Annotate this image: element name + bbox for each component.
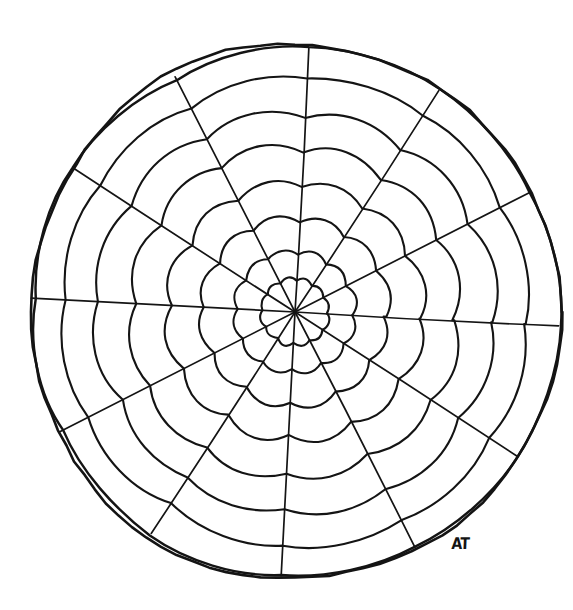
artist-signature: AT	[451, 534, 469, 552]
radial-spoke-1	[295, 312, 559, 326]
radial-spoke-8	[74, 168, 295, 312]
radial-spokes-group	[31, 48, 558, 575]
mandala-artwork	[0, 0, 573, 610]
drawing-canvas: AT	[0, 0, 573, 610]
radial-spoke-2	[295, 312, 516, 456]
radial-spoke-3	[295, 312, 415, 547]
radial-spoke-5	[151, 312, 295, 533]
radial-spoke-4	[281, 312, 295, 576]
radial-spoke-6	[60, 312, 295, 432]
radial-spoke-10	[295, 48, 309, 312]
radial-spoke-7	[31, 298, 295, 312]
radial-spoke-12	[295, 192, 530, 312]
